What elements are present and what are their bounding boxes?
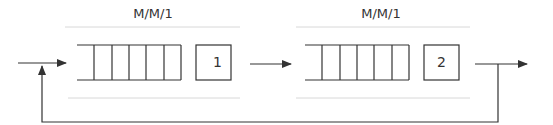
station-2-server-label: 2 [424,45,459,80]
station-1-type-label: M/M/1 [113,6,193,21]
station-1-server-label: 1 [200,45,235,80]
queue-network-diagram [0,0,553,125]
station-1-queue [77,45,181,80]
station-2-queue [305,45,409,80]
station-2-type-label: M/M/1 [341,6,421,21]
